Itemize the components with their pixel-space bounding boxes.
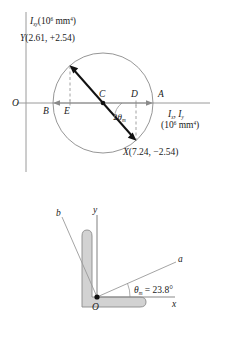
- theta-m-value-label: θm = 23.8°: [134, 285, 173, 296]
- mohr-circle-group: Ixy(106 mm4) Y(2.61, +2.54) X(7.24, −2.5…: [12, 12, 210, 172]
- figure-root: Ixy(106 mm4) Y(2.61, +2.54) X(7.24, −2.5…: [0, 0, 225, 355]
- point-label-c: C: [99, 89, 106, 99]
- mechanics-figure: Ixy(106 mm4) Y(2.61, +2.54) X(7.24, −2.5…: [0, 0, 225, 355]
- center-point-c: [101, 101, 106, 106]
- angle-section-group: y x a b O θm = 23.8°: [56, 205, 183, 312]
- point-label-a: A: [157, 89, 164, 99]
- point-label-e: E: [63, 106, 70, 116]
- vertical-axis-label: Ixy(106 mm4): [29, 16, 76, 27]
- angle-arc-theta-m: [128, 284, 131, 298]
- section-origin-label: O: [92, 302, 99, 312]
- angle-section-shape: [82, 230, 146, 307]
- point-label-y: Y(2.61, +2.54): [20, 33, 75, 44]
- origin-label-mohr: O: [12, 98, 19, 108]
- horizontal-axis-label-line1: Ix, Iy: [167, 109, 184, 120]
- point-label-d: D: [130, 89, 138, 99]
- point-label-b: B: [43, 106, 49, 116]
- horizontal-axis-label-line2: (106 mm4): [161, 120, 199, 131]
- section-label-b: b: [56, 208, 61, 218]
- origin-dot: [94, 294, 99, 299]
- section-label-a: a: [178, 254, 183, 264]
- section-label-x: x: [171, 299, 177, 309]
- point-label-x: X(7.24, −2.54): [122, 147, 179, 158]
- section-label-y: y: [92, 205, 98, 215]
- angle-label-2theta-m: 2θm: [113, 112, 126, 123]
